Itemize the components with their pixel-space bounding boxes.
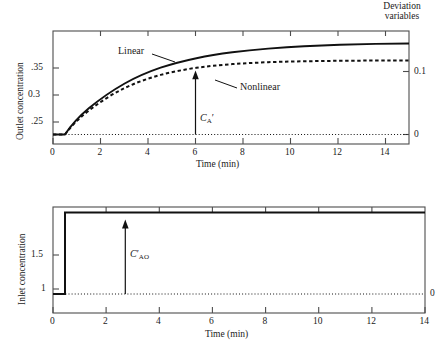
top-x-axis-ticks <box>53 138 386 144</box>
figure-svg <box>0 0 446 354</box>
top-yaxis-title: Outlet concentration <box>16 62 26 140</box>
nonlinear-leader-line <box>215 80 237 88</box>
bottom-xtick-1: 2 <box>103 317 108 327</box>
nonlinear-curve <box>53 61 409 135</box>
bottom-xtick-3: 6 <box>209 317 214 327</box>
bottom-right-tick-0: 0 <box>430 289 435 299</box>
top-xtick-3: 6 <box>193 148 198 158</box>
bottom-annot-sub: AO <box>139 253 149 261</box>
top-left-axis-ticks <box>53 68 59 122</box>
bottom-xtick-5: 10 <box>313 317 323 327</box>
top-xtick-6: 12 <box>333 148 343 158</box>
figure-container: Deviation variables .25 0.3 .35 0 2 4 6 … <box>0 0 446 354</box>
bottom-plot-frame <box>53 207 425 313</box>
bottom-xtick-6: 12 <box>367 317 377 327</box>
linear-leader-line <box>152 54 175 62</box>
bottom-xtick-4: 8 <box>263 317 268 327</box>
top-right-axis-ticks <box>403 72 409 135</box>
top-plot-frame <box>53 31 409 144</box>
top-ytick-0: .25 <box>31 117 43 127</box>
top-ytick-1: 0.3 <box>28 90 40 100</box>
top-annot-base: C <box>200 112 207 123</box>
deviation-note-line2: variables <box>360 12 444 22</box>
top-xtick-7: 14 <box>380 148 390 158</box>
bottom-left-axis-ticks <box>53 255 59 289</box>
bottom-annot-base: C <box>130 248 137 259</box>
top-xaxis-title: Time (min) <box>196 160 239 170</box>
inlet-step-curve <box>53 213 425 295</box>
bottom-yaxis-title: Inlet concentration <box>18 234 28 305</box>
top-xtick-0: 0 <box>50 148 55 158</box>
top-top-edge-ticks <box>101 31 386 36</box>
top-xtick-4: 8 <box>240 148 245 158</box>
nonlinear-series-label: Nonlinear <box>240 82 280 92</box>
top-annot-prime: ′ <box>212 112 214 123</box>
bottom-xtick-2: 4 <box>156 317 161 327</box>
top-xtick-2: 4 <box>145 148 150 158</box>
top-xtick-5: 10 <box>285 148 295 158</box>
bottom-annotation-arrow <box>122 220 129 295</box>
linear-series-label: Linear <box>118 46 144 56</box>
top-annotation-arrow <box>192 71 199 135</box>
bottom-top-edge-ticks <box>106 207 372 212</box>
bottom-annotation-label: C′AO <box>130 249 149 261</box>
top-right-tick-1: 0.1 <box>414 67 426 77</box>
top-annotation-label: CA′ <box>200 113 214 125</box>
linear-curve <box>53 44 409 135</box>
deviation-variables-note: Deviation variables <box>360 2 444 21</box>
bottom-xtick-7: 14 <box>420 317 430 327</box>
top-ytick-2: .35 <box>31 63 43 73</box>
bottom-ytick-1: 1.5 <box>31 250 43 260</box>
top-xtick-1: 2 <box>98 148 103 158</box>
bottom-ytick-0: 1 <box>41 284 46 294</box>
bottom-x-axis-ticks <box>53 307 425 313</box>
bottom-xtick-0: 0 <box>50 317 55 327</box>
top-right-tick-0: 0 <box>414 130 419 140</box>
bottom-xaxis-title: Time (min) <box>205 330 248 340</box>
